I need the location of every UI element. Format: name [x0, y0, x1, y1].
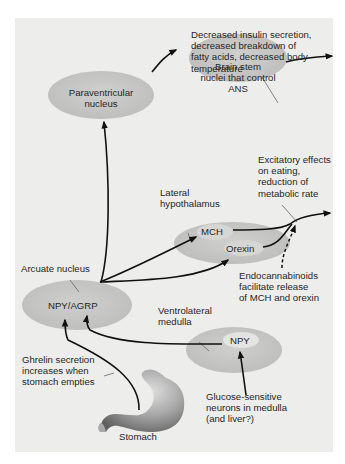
arcuate-nucleus-label: Arcuate nucleus — [21, 263, 90, 274]
node-line: hypothalamus — [160, 198, 220, 209]
ghrelin-annotation: Ghrelin secretion increases when stomach… — [22, 354, 95, 388]
node-line: Brain stem — [198, 61, 278, 72]
annotation-line: decreased breakdown of — [191, 40, 312, 51]
lateral-hypothalamus-label: Lateral hypothalamus — [160, 187, 220, 209]
annotation-line: stomach empties — [22, 376, 95, 387]
annotation-line: facilitate release — [239, 281, 319, 292]
annotation-line: of MCH and orexin — [239, 292, 319, 303]
medulla-npy-label: NPY — [230, 335, 250, 346]
endocannabinoids-annotation: Endocannabinoids facilitate release of M… — [239, 270, 319, 304]
annotation-line: increases when — [22, 365, 95, 376]
annotation-line: reduction of — [258, 176, 331, 187]
annotation-line: Glucose-sensitive — [206, 391, 287, 402]
annotation-line: metabolic rate — [258, 188, 331, 199]
orexin-label: Orexin — [226, 243, 254, 254]
node-line: nucleus — [61, 98, 141, 109]
node-line: nuclei that control — [198, 72, 278, 83]
ventrolateral-medulla-label: Ventrolateral medulla — [158, 305, 212, 327]
annotation-line: (and liver?) — [206, 413, 287, 424]
annotation-line: Decreased insulin secretion, — [191, 29, 312, 40]
glucose-annotation: Glucose-sensitive neurons in medulla (an… — [206, 391, 287, 425]
node-line: medulla — [158, 316, 212, 327]
node-line: ANS — [198, 83, 278, 94]
node-line: Lateral — [160, 187, 220, 198]
node-line: Paraventricular — [61, 87, 141, 98]
annotation-line: Ghrelin secretion — [22, 354, 95, 365]
annotation-line: on eating, — [258, 165, 331, 176]
annotation-line: Excitatory effects — [258, 154, 331, 165]
annotation-line: neurons in medulla — [206, 402, 287, 413]
mch-label: MCH — [201, 226, 223, 237]
brainstem-node-label: Brain stem nuclei that control ANS — [198, 61, 278, 95]
paraventricular-node-label: Paraventricular nucleus — [61, 87, 141, 109]
stomach-illustration — [98, 370, 184, 432]
stomach-label: Stomach — [119, 431, 157, 442]
npy-agrp-label: NPY/AGRP — [48, 300, 98, 311]
hypothalamus-output-annotation: Excitatory effects on eating, reduction … — [258, 154, 331, 199]
node-line: Ventrolateral — [158, 305, 212, 316]
annotation-line: Endocannabinoids — [239, 270, 319, 281]
